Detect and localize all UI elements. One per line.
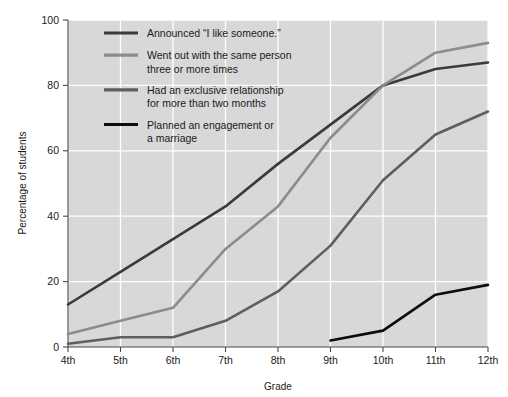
x-tick-label: 12th [478, 354, 499, 366]
x-tick-label: 11th [426, 354, 446, 366]
y-tick-label: 80 [47, 79, 59, 91]
x-tick-label: 9th [323, 354, 338, 366]
x-tick-label: 10th [373, 354, 394, 366]
legend-label: Planned an engagement or [147, 119, 274, 131]
legend-label-continued: a marriage [147, 132, 197, 144]
legend-label: Announced “I like someone.” [147, 27, 281, 39]
x-tick-label: 5th [113, 354, 128, 366]
x-axis-label: Grade [264, 381, 292, 392]
y-axis-label: Percentage of students [17, 132, 28, 235]
line-chart: 020406080100 4th5th6th7th8th9th10th11th1… [0, 0, 508, 397]
x-tick-label: 6th [166, 354, 181, 366]
legend-label: Had an exclusive relationship [147, 84, 284, 96]
legend-label-continued: for more than two months [147, 97, 266, 109]
x-tick-label: 4th [61, 354, 76, 366]
y-tick-label: 40 [47, 210, 59, 222]
legend-label-continued: three or more times [147, 63, 238, 75]
y-tick-label: 0 [53, 341, 59, 353]
chart-figure: 020406080100 4th5th6th7th8th9th10th11th1… [0, 0, 508, 397]
x-tick-label: 7th [218, 354, 233, 366]
x-tick-label: 8th [271, 354, 286, 366]
y-tick-label: 60 [47, 144, 59, 156]
y-tick-label: 20 [47, 275, 59, 287]
y-tick-label: 100 [41, 14, 59, 26]
legend-label: Went out with the same person [147, 49, 292, 61]
